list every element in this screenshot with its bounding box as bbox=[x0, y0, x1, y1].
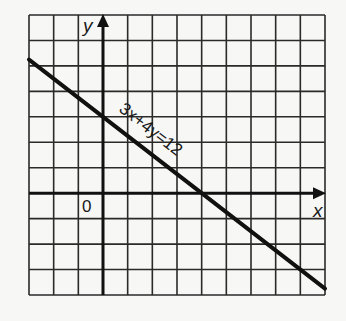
equation-label: 3x+4y=12 bbox=[116, 99, 187, 160]
x-axis-label: x bbox=[312, 200, 324, 221]
y-axis-arrow-icon bbox=[97, 14, 109, 27]
x-axis-arrow-icon bbox=[313, 187, 326, 199]
coordinate-graph: y x 0 3x+4y=12 bbox=[0, 0, 346, 321]
y-axis-label: y bbox=[81, 15, 94, 36]
origin-label: 0 bbox=[82, 197, 91, 216]
